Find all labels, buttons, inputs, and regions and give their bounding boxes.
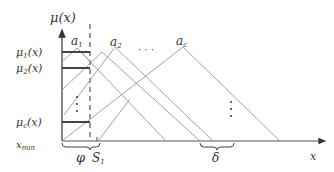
membership-triangle-a1 — [62, 48, 92, 63]
peak-a2-label: a2 — [110, 35, 122, 50]
delta-label: δ — [212, 151, 219, 165]
membership-diagram: μ(x) x μ1(x) μ2(x) μc(x) a1 a2 ac · · · … — [0, 0, 334, 172]
membership-triangle-a2-line — [64, 47, 213, 141]
mu2-label: μ2(x) — [16, 62, 42, 76]
phi-label: φ — [76, 150, 86, 165]
x-min-label: xmin — [16, 139, 36, 152]
mu1-label: μ1(x) — [16, 46, 42, 60]
peak-ac-label: ac — [176, 34, 187, 49]
x-axis-label: x — [310, 150, 317, 163]
y-axis-label: μ(x) — [50, 10, 76, 25]
phi-brace — [62, 143, 100, 150]
membership-triangle-early — [62, 52, 200, 141]
s1-label: S1 — [92, 151, 105, 166]
membership-triangle-mid — [98, 99, 130, 141]
vertical-ellipsis-right — [230, 101, 232, 117]
delta-brace — [200, 143, 234, 150]
membership-triangle-ac — [62, 47, 280, 141]
peak-ellipsis: · · · — [138, 44, 154, 55]
muc-label: μc(x) — [16, 116, 42, 130]
peak-a1-label: a1 — [71, 34, 83, 49]
